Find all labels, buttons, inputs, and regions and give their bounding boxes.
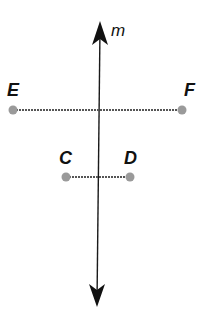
line-m-stroke [97,28,100,302]
line-m-label: m [111,21,125,40]
point-f [178,106,187,115]
point-c-label: C [59,148,73,168]
point-e-label: E [7,80,20,100]
point-c [62,173,71,182]
line-m: m [89,21,125,307]
segment-ef: E F [7,80,196,115]
point-d-label: D [124,148,137,168]
point-f-label: F [184,80,196,100]
point-e [9,106,18,115]
geometry-diagram: m E F C D [0,0,207,319]
point-d [126,173,135,182]
